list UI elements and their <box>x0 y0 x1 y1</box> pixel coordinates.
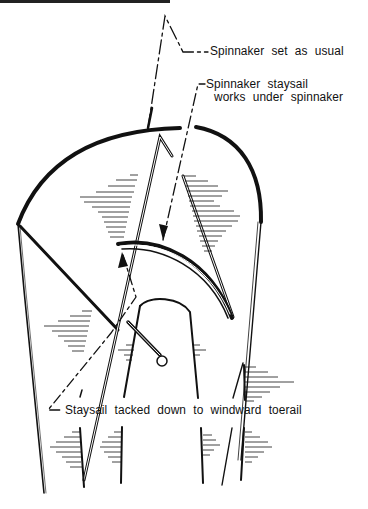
inner-hull-left <box>124 306 140 397</box>
spinnaker-arc <box>18 128 180 224</box>
arrow-tack-icon <box>118 252 128 268</box>
spinnaker-pole <box>20 226 118 330</box>
hull-left <box>18 224 44 493</box>
label-spinnaker: Spinnaker set as usual <box>210 45 344 58</box>
sail-diagram <box>0 0 368 509</box>
inner-hull-arch <box>140 299 198 398</box>
label-staysail-line2: works under spinnaker <box>214 91 343 104</box>
mast-icon <box>157 356 167 366</box>
hull-right <box>241 222 261 460</box>
spinnaker-arc-right <box>196 127 261 222</box>
leader-spinnaker <box>148 16 208 128</box>
label-tack: Staysail tacked down to windward toerail <box>65 404 302 417</box>
leader-tack <box>48 255 136 410</box>
arrow-staysail-icon <box>159 224 168 240</box>
